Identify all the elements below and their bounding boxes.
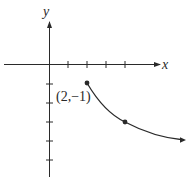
curve	[87, 83, 184, 140]
point-label: (2,−1)	[56, 89, 91, 105]
curve-arrow-icon	[180, 137, 186, 143]
point-mid	[123, 120, 128, 125]
y-axis-label: y	[41, 4, 50, 19]
point-start	[85, 81, 90, 86]
x-axis-label: x	[161, 57, 169, 72]
graph: y x (2,−1)	[0, 0, 186, 186]
